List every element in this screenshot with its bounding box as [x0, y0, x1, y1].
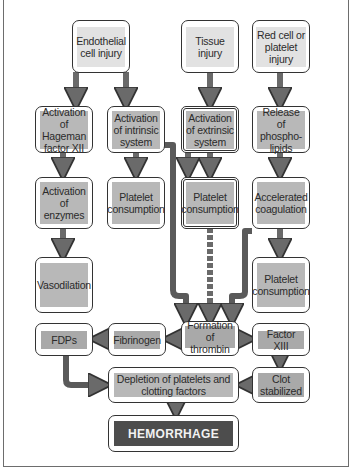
node-hemorrhage: HEMORRHAGE [108, 415, 239, 452]
arrow-accelerated-to-thrombin [232, 231, 252, 316]
node-label: Tissue injury [186, 27, 234, 67]
node-label: Red cell or platelet injury [256, 27, 306, 67]
node-hageman: Activation of Hageman factor XII [35, 106, 93, 153]
node-phospholipids: Release of phospho-lipids [252, 106, 310, 153]
node-endothelial-injury: Endothelial cell injury [72, 20, 130, 73]
node-label: FDPs [41, 331, 87, 349]
arrow-intrinsic-to-thrombin [164, 145, 186, 316]
node-platelet-consumption-extrinsic: Platelet consumption [181, 177, 239, 229]
arrow-fdps-to-depletion [66, 355, 101, 385]
node-label: Formation of thrombin [185, 326, 235, 348]
node-redcell-injury: Red cell or platelet injury [252, 20, 310, 73]
node-label: Vasodilation [40, 263, 88, 307]
node-vasodilation: Vasodilation [35, 257, 93, 313]
node-label: Platelet consumption [186, 182, 234, 224]
node-label: Accelerated coagulation [257, 182, 305, 224]
node-label: Depletion of platelets and clotting fact… [114, 373, 233, 397]
node-fibrinogen: Fibrinogen [108, 323, 166, 356]
node-label: Activation of intrinsic system [112, 111, 160, 149]
node-tissue-injury: Tissue injury [181, 20, 239, 73]
node-label: Factor XIII [258, 331, 304, 349]
node-extrinsic: Activation of extrinsic system [181, 106, 239, 153]
node-accelerated-coagulation: Accelerated coagulation [252, 177, 310, 229]
node-label: HEMORRHAGE [114, 421, 233, 446]
node-intrinsic: Activation of intrinsic system [107, 106, 165, 153]
node-platelet-consumption-intrinsic: Platelet consumption [107, 177, 165, 229]
node-enzymes: Activation of enzymes [35, 177, 93, 229]
node-platelet-consumption-accelerated: Platelet consumption [252, 257, 310, 313]
node-label: Activation of Hageman factor XII [40, 111, 88, 149]
node-label: Platelet consumption [257, 263, 305, 307]
node-factor13: Factor XIII [252, 323, 310, 356]
node-fdps: FDPs [35, 323, 93, 356]
node-label: Activation of extrinsic system [186, 111, 234, 149]
node-label: Fibrinogen [114, 331, 160, 349]
node-label: Endothelial cell injury [77, 27, 125, 67]
node-depletion: Depletion of platelets and clotting fact… [108, 367, 239, 403]
node-label: Release of phospho-lipids [257, 111, 305, 149]
node-label: Activation of enzymes [40, 182, 88, 224]
node-label: Clot stabilized [258, 373, 304, 397]
node-label: Platelet consumption [112, 182, 160, 224]
node-thrombin: Formation of thrombin [181, 321, 239, 356]
node-clot-stabilized: Clot stabilized [252, 367, 310, 403]
